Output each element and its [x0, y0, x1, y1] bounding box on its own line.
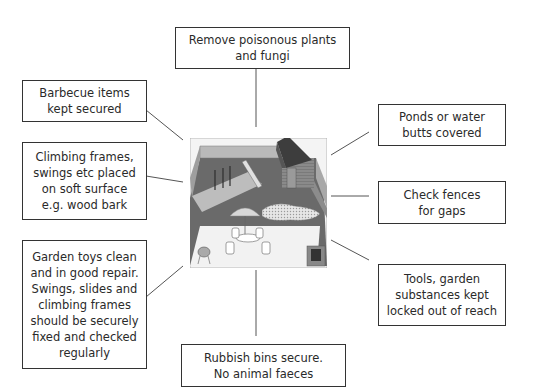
- label-text: Climbing frames, swings etc placed on so…: [33, 149, 136, 213]
- label-text: Rubbish bins secure. No animal faeces: [204, 350, 323, 382]
- label-ponds: Ponds or water butts covered: [378, 104, 506, 146]
- label-text: Ponds or water butts covered: [399, 109, 485, 141]
- label-tools: Tools, garden substances kept locked out…: [378, 264, 506, 326]
- connector-climbing: [146, 176, 183, 182]
- label-text: Remove poisonous plants and fungi: [189, 32, 336, 64]
- label-text: Garden toys clean and in good repair. Sw…: [30, 249, 138, 361]
- label-text: Tools, garden substances kept locked out…: [387, 271, 497, 319]
- connector-tools: [331, 240, 369, 260]
- back-fence: [200, 146, 282, 158]
- label-barbecue: Barbecue items kept secured: [22, 80, 147, 122]
- label-climbing-frames: Climbing frames, swings etc placed on so…: [22, 142, 147, 220]
- label-rubbish-bins: Rubbish bins secure. No animal faeces: [181, 344, 346, 387]
- label-fences: Check fences for gaps: [378, 181, 506, 224]
- connector-barbecue: [146, 110, 183, 140]
- label-garden-toys: Garden toys clean and in good repair. Sw…: [22, 240, 147, 369]
- connector-toys: [146, 266, 183, 297]
- connector-ponds: [331, 132, 369, 155]
- bin-store: [307, 246, 325, 266]
- label-poisonous-plants: Remove poisonous plants and fungi: [175, 27, 350, 69]
- garden-illustration: [190, 138, 327, 268]
- label-text: Check fences for gaps: [404, 187, 481, 219]
- label-text: Barbecue items kept secured: [39, 85, 129, 117]
- patio: [190, 226, 320, 266]
